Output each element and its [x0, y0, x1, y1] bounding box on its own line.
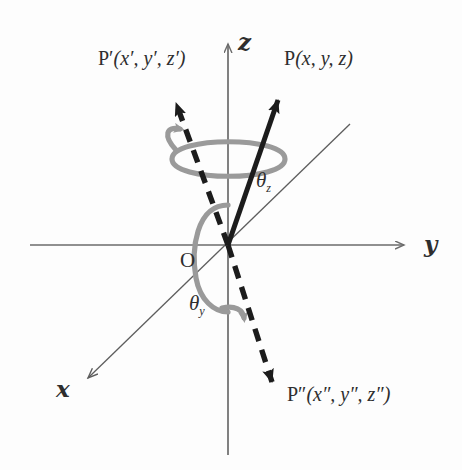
vector-P-double-prime: [228, 245, 272, 382]
theta-z-subscript: z: [266, 181, 271, 195]
label-point-P-double-prime-name: P″: [287, 383, 306, 405]
theta-y-symbol: θ: [189, 291, 199, 315]
label-point-P-coords: (x, y, z): [295, 47, 353, 69]
label-point-P-prime-name: P′: [98, 47, 114, 69]
theta-y-subscript: y: [199, 304, 204, 318]
label-point-P-prime-coords: (x′, y′, z′): [114, 47, 186, 69]
label-axis-x: x: [56, 377, 70, 400]
label-point-P-double-prime: P″(x″, y″, z″): [287, 384, 390, 404]
theta-z-symbol: θ: [256, 168, 266, 192]
label-origin: O: [180, 250, 195, 271]
label-point-P-prime: P′(x′, y′, z′): [98, 48, 185, 68]
label-angle-theta-y: θy: [189, 293, 205, 317]
label-axis-y: y: [424, 232, 437, 255]
label-point-P: P(x, y, z): [284, 48, 353, 68]
label-angle-theta-z: θz: [256, 170, 271, 194]
label-point-P-name: P: [284, 47, 295, 69]
x-axis-line: [88, 124, 350, 378]
figure-canvas: P(x, y, z) P′(x′, y′, z′) P″(x″, y″, z″)…: [0, 0, 462, 470]
label-axis-z: z: [238, 30, 251, 53]
label-point-P-double-prime-coords: (x″, y″, z″): [306, 383, 390, 405]
